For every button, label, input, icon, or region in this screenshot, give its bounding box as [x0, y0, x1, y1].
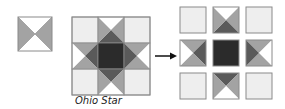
exploded-grid [180, 7, 272, 99]
figure-caption: Ohio Star [75, 95, 122, 106]
arrow-right-icon [155, 53, 177, 60]
ohio-star-diagram [0, 0, 285, 109]
ohio-star-block [72, 17, 150, 95]
single-hourglass-block [18, 17, 52, 51]
